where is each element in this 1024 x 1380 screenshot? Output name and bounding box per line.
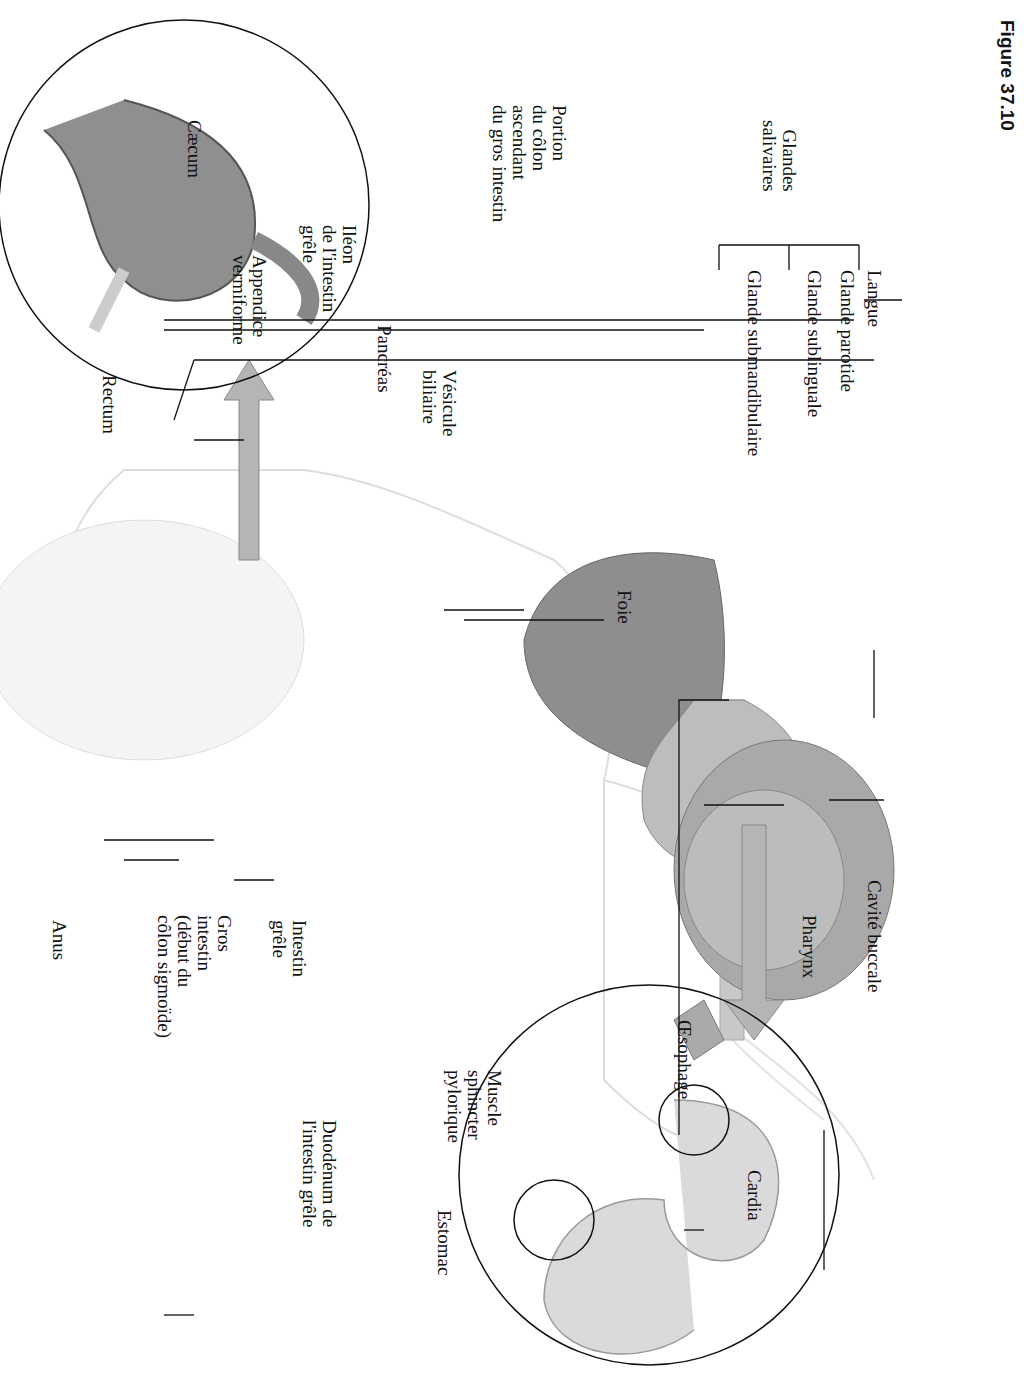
label-appendice: Appendice vermiforme: [229, 255, 269, 345]
label-glande-submandibulaire: Glande submandibulaire: [744, 270, 764, 456]
label-pharynx: Pharynx: [799, 915, 819, 978]
label-pancreas: Pancréas: [374, 325, 394, 393]
label-langue: Langue: [864, 270, 884, 327]
label-oesophage: Œsophage: [674, 1020, 694, 1099]
label-duodenum: Duodénum de l'intestin grêle: [299, 1120, 339, 1227]
label-glandes-salivaires: Glandes salivaires: [759, 120, 799, 192]
label-glande-sublinguale: Glande sublinguale: [804, 270, 824, 417]
label-caecum: Cæcum: [184, 120, 204, 178]
label-cavite-buccale: Cavité buccale: [864, 880, 884, 992]
label-estomac: Estomac: [434, 1210, 454, 1275]
label-anus: Anus: [49, 920, 69, 960]
label-muscle-sphincter: Muscle sphincter pylorique: [444, 1070, 504, 1143]
digestive-system-diagram: Figure 37.10 Langue Glandes salivaires G…: [0, 0, 1024, 1380]
label-intestin-grele: Intestin grêle: [269, 920, 309, 977]
figure-caption: Figure 37.10: [996, 20, 1018, 131]
label-cardia: Cardia: [744, 1170, 764, 1221]
label-ileon: Iléon de l'intestin grêle: [299, 225, 359, 312]
label-rectum: Rectum: [99, 375, 119, 434]
label-vesicule-biliaire: Vésicule biliaire: [419, 370, 459, 436]
arrow-colon: [224, 360, 274, 560]
label-foie: Foie: [614, 590, 634, 624]
label-portion-colon: Portion du côlon ascendant du gros intes…: [489, 105, 569, 222]
label-glande-parotide: Glande parotide: [837, 270, 857, 392]
label-gros-intestin: Gros intestin (début du côlon sigmoïde): [154, 915, 234, 1038]
